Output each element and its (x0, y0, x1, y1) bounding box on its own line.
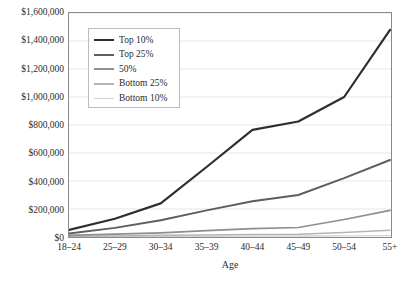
x-axis-tick-label: 25–29 (103, 242, 127, 253)
legend-item[interactable]: Bottom 25% (94, 77, 174, 92)
y-axis-tick-label: $600,000 (28, 148, 64, 158)
legend-item[interactable]: 50% (94, 62, 174, 77)
legend-item-label: 50% (119, 64, 136, 75)
legend-item[interactable]: Top 10% (94, 33, 174, 48)
chart-legend: Top 10%Top 25%50%Bottom 25%Bottom 10% (88, 28, 180, 108)
x-axis-tick-label: 45–49 (286, 242, 310, 253)
x-axis-tick-label: 40–44 (241, 242, 265, 253)
legend-color-swatch (94, 98, 114, 99)
x-axis-tick-label: 50–54 (332, 242, 356, 253)
y-axis-tick-label: $1,200,000 (21, 64, 64, 74)
x-axis-tick-label: 18–24 (57, 242, 81, 253)
legend-item[interactable]: Bottom 10% (94, 91, 174, 106)
y-axis-tick-label: $1,400,000 (21, 35, 64, 45)
series-line (69, 210, 390, 235)
x-axis-tick-label: 55+ (383, 242, 398, 253)
x-axis-tick-label: 35–39 (195, 242, 219, 253)
legend-color-swatch (94, 68, 114, 70)
line-chart: $0$200,000$400,000$600,000$800,000$1,000… (0, 0, 411, 284)
y-axis-tick-label: $200,000 (28, 205, 64, 215)
legend-item-label: Bottom 10% (119, 93, 167, 104)
legend-color-swatch (94, 54, 114, 56)
y-axis-tick-label: $400,000 (28, 177, 64, 187)
legend-item-label: Bottom 25% (119, 78, 167, 89)
legend-color-swatch (94, 83, 114, 85)
y-axis-tick-label: $1,000,000 (21, 92, 64, 102)
legend-item-label: Top 25% (119, 49, 153, 60)
y-axis-tick-label: $1,600,000 (21, 7, 64, 17)
legend-item[interactable]: Top 25% (94, 48, 174, 63)
legend-item-label: Top 10% (119, 35, 153, 46)
x-axis-tick-label: 30–34 (149, 242, 173, 253)
y-axis-tick-labels: $0$200,000$400,000$600,000$800,000$1,000… (0, 0, 64, 284)
legend-color-swatch (94, 39, 114, 41)
series-line (69, 160, 390, 234)
x-axis-title: Age (68, 259, 392, 270)
y-axis-tick-label: $800,000 (28, 120, 64, 130)
